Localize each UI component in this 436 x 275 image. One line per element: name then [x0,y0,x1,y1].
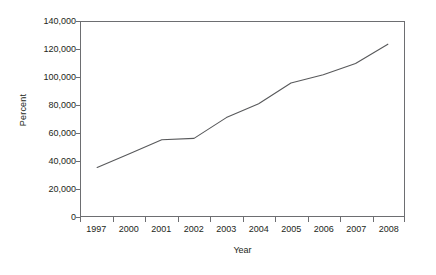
x-axis-tick-mark [308,217,309,222]
y-axis-tick-labels: 020,00040,00060,00080,000100,000120,0001… [26,21,76,217]
y-axis-tick-label: 0 [26,213,76,222]
y-axis-tick-mark [76,77,80,78]
x-axis-tick-marks [80,217,405,223]
plot-area [80,21,405,217]
y-axis-tick-label: 100,000 [26,73,76,82]
x-axis-tick-mark [178,217,179,222]
x-axis-tick-mark [243,217,244,222]
x-axis-title: Year [80,245,405,255]
plot-svg [81,22,404,216]
x-axis-tick-label: 2008 [373,224,406,235]
y-axis-tick-mark [76,133,80,134]
x-axis-tick-label: 2004 [243,224,276,235]
x-axis-tick-mark [113,217,114,222]
x-axis-tick-label: 2000 [113,224,146,235]
y-axis-tick-label: 80,000 [26,101,76,110]
x-axis-tick-labels: 1997200020012002200320042005200620072008 [80,224,405,238]
y-axis-tick-label: 60,000 [26,129,76,138]
y-axis-tick-mark [76,49,80,50]
x-axis-tick-label: 2005 [275,224,308,235]
x-axis-tick-label: 2002 [178,224,211,235]
y-axis-tick-mark [76,21,80,22]
x-axis-tick-mark [340,217,341,222]
x-axis-tick-label: 1997 [80,224,113,235]
x-axis-tick-mark [404,217,405,222]
x-axis-tick-label: 2006 [308,224,341,235]
data-series-line [97,44,388,167]
x-axis-tick-mark [145,217,146,222]
y-axis-tick-mark [76,217,80,218]
x-axis-tick-mark [373,217,374,222]
x-axis-tick-mark [210,217,211,222]
x-axis-tick-mark [275,217,276,222]
x-axis-tick-label: 2007 [340,224,373,235]
y-axis-tick-label: 20,000 [26,185,76,194]
x-axis-tick-mark [80,217,81,222]
y-axis-tick-mark [76,105,80,106]
x-axis-tick-label: 2003 [210,224,243,235]
y-axis-tick-label: 140,000 [26,17,76,26]
y-axis-tick-mark [76,161,80,162]
x-axis-tick-label: 2001 [145,224,178,235]
y-axis-tick-mark [76,189,80,190]
y-axis-tick-label: 40,000 [26,157,76,166]
line-chart: Percent 020,00040,00060,00080,000100,000… [0,0,436,275]
y-axis-tick-label: 120,000 [26,45,76,54]
